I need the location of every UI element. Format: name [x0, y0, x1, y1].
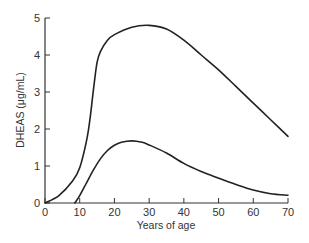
y-tick-label: 3 [34, 86, 40, 98]
y-tick-label: 0 [34, 197, 40, 209]
lower-curve [75, 141, 288, 203]
upper-curve [45, 25, 288, 203]
x-tick-label: 50 [212, 206, 224, 218]
y-tick-label: 5 [34, 12, 40, 24]
y-tick-label: 2 [34, 123, 40, 135]
y-axis-title: DHEAS (μg/mL) [14, 72, 26, 147]
x-tick-label: 40 [178, 206, 190, 218]
data-series [45, 25, 288, 203]
x-tick-label: 10 [74, 206, 86, 218]
dheas-age-chart: 010203040506070012345 Years of age DHEAS… [0, 0, 309, 243]
x-tick-label: 30 [143, 206, 155, 218]
y-tick-label: 4 [34, 49, 40, 61]
x-tick-label: 70 [282, 206, 294, 218]
x-axis-title: Years of age [137, 219, 196, 231]
axes [45, 18, 288, 203]
y-tick-label: 1 [34, 160, 40, 172]
x-tick-label: 0 [42, 206, 48, 218]
tick-marks: 010203040506070012345 [34, 12, 294, 218]
x-tick-label: 20 [108, 206, 120, 218]
x-tick-label: 60 [247, 206, 259, 218]
